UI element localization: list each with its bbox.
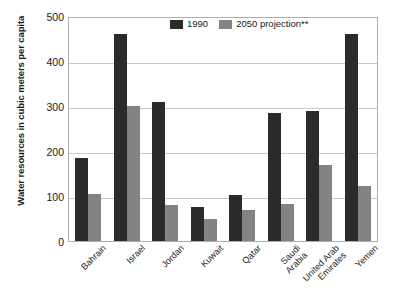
y-axis-tick-label: 500 — [28, 12, 64, 22]
legend-item: 1990 — [170, 19, 208, 29]
y-axis-title: Water resources in cubic meters per capi… — [15, 6, 27, 216]
y-axis-tick-label: 400 — [28, 57, 64, 67]
legend-label: 2050 projection** — [236, 19, 308, 29]
bar-group — [268, 18, 294, 241]
dark-square-swatch — [170, 20, 183, 29]
y-axis-tick-label: 300 — [28, 102, 64, 112]
bar-series-1 — [152, 102, 165, 241]
x-axis-tick-labels: BahrainIsraelJordanKuwaitQatarSaudiArabi… — [68, 243, 378, 300]
bar-series-2 — [242, 210, 255, 241]
bar-series-1 — [306, 111, 319, 242]
bar-series-1 — [114, 34, 127, 241]
legend-item: 2050 projection** — [219, 19, 308, 29]
bar-series-2 — [127, 106, 140, 241]
bar-group — [191, 18, 217, 241]
bar-group — [345, 18, 371, 241]
bar-group — [229, 18, 255, 241]
y-axis-tick-label: 0 — [28, 237, 64, 247]
bar-group — [306, 18, 332, 241]
bar-series-1 — [345, 34, 358, 241]
bar-series-2 — [165, 205, 178, 241]
bar-series-1 — [75, 158, 88, 241]
y-axis-title-container: Water resources in cubic meters per capi… — [0, 0, 30, 245]
y-axis-tick-label: 200 — [28, 147, 64, 157]
chart-legend: 19902050 projection** — [170, 19, 309, 29]
bar-series-2 — [319, 165, 332, 242]
bar-series-1 — [229, 195, 242, 241]
bar-groups — [69, 18, 377, 241]
gray-square-swatch — [219, 20, 232, 29]
bar-series-2 — [204, 219, 217, 242]
plot-area — [68, 17, 378, 242]
bar-group — [75, 18, 101, 241]
bar-series-1 — [268, 113, 281, 241]
bar-series-2 — [88, 194, 101, 241]
bar-chart: Water resources in cubic meters per capi… — [0, 0, 399, 300]
bar-series-2 — [281, 204, 294, 241]
bar-series-1 — [191, 207, 204, 241]
bar-group — [114, 18, 140, 241]
y-axis-tick-labels: 5004003002001000 — [28, 0, 64, 250]
y-axis-tick-label: 100 — [28, 192, 64, 202]
bar-series-2 — [358, 186, 371, 241]
bar-group — [152, 18, 178, 241]
legend-label: 1990 — [187, 19, 208, 29]
